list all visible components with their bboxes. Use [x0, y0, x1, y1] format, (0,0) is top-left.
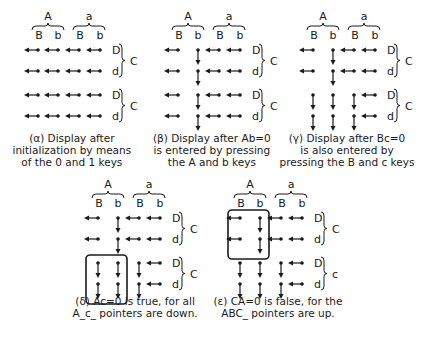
- left-pointer-icon: [125, 237, 141, 242]
- left-pointer-icon: [205, 69, 221, 74]
- label-B-col: B: [216, 29, 224, 42]
- caption-line: is entered by pressing: [153, 144, 271, 156]
- left-pointer-icon: [164, 114, 180, 119]
- left-pointer-icon: [361, 48, 377, 53]
- left-pointer-icon: [164, 69, 180, 74]
- label-b-col: b: [299, 197, 306, 210]
- label-b-col: b: [55, 29, 62, 42]
- label-B-col: B: [76, 29, 84, 42]
- left-pointer-icon: [340, 69, 356, 74]
- label-d-row: d: [314, 233, 321, 246]
- left-pointer-icon: [65, 93, 81, 98]
- label-D-row: D: [112, 89, 120, 102]
- label-d-row: d: [252, 65, 259, 78]
- down-pointer-icon: [196, 93, 201, 110]
- left-pointer-icon: [288, 237, 304, 242]
- label-D-row: D: [314, 257, 322, 270]
- caption-line: (ε) CA=0 is false, for the: [214, 295, 343, 307]
- left-pointer-icon: [86, 114, 102, 119]
- caption-line: is also entered by: [280, 144, 415, 156]
- label-b-col: b: [195, 29, 202, 42]
- label-d-row: d: [112, 110, 119, 123]
- label-B-col: B: [136, 197, 144, 210]
- label-a: a: [146, 178, 153, 191]
- label-A: A: [319, 10, 327, 23]
- left-pointer-icon: [361, 114, 377, 119]
- down-pointer-icon: [96, 261, 101, 278]
- label-D-row: D: [252, 44, 260, 57]
- label-D-row: D: [387, 89, 395, 102]
- left-pointer-icon: [226, 69, 242, 74]
- label-a: a: [86, 10, 93, 23]
- label-D-row: D: [172, 212, 180, 225]
- left-pointer-icon: [205, 93, 221, 98]
- down-pointer-icon: [258, 216, 263, 233]
- label-d-row: d: [112, 65, 119, 78]
- label-C: C: [190, 223, 198, 236]
- caption-line: (γ) Display after Bc=0: [280, 132, 415, 144]
- left-pointer-icon: [86, 69, 102, 74]
- left-pointer-icon: [146, 261, 162, 266]
- down-pointer-icon: [196, 69, 201, 86]
- down-pointer-icon: [196, 114, 201, 131]
- caption-line: pressing the B and c keys: [280, 156, 415, 168]
- left-pointer-icon: [44, 48, 60, 53]
- left-pointer-icon: [24, 69, 40, 74]
- label-b-col: b: [330, 29, 337, 42]
- label-b-col: b: [237, 29, 244, 42]
- left-pointer-icon: [361, 93, 377, 98]
- left-pointer-icon: [288, 261, 304, 266]
- left-pointer-icon: [24, 48, 40, 53]
- caption-line: of the 0 and 1 keys: [13, 156, 132, 168]
- left-pointer-icon: [86, 48, 102, 53]
- label-A: A: [246, 178, 254, 191]
- caption-line: initialization by means: [13, 144, 132, 156]
- highlight-box: [228, 210, 269, 259]
- label-D-row: D: [387, 44, 395, 57]
- left-pointer-icon: [146, 216, 162, 221]
- left-pointer-icon: [299, 48, 315, 53]
- left-pointer-icon: [288, 216, 304, 221]
- label-b-col: b: [97, 29, 104, 42]
- label-C: C: [405, 55, 413, 68]
- label-D-row: D: [172, 257, 180, 270]
- left-pointer-icon: [44, 93, 60, 98]
- left-pointer-icon: [24, 93, 40, 98]
- label-B-col: B: [237, 197, 245, 210]
- caption-alpha: (α) Display afterinitialization by means…: [13, 132, 132, 168]
- label-B-col: B: [35, 29, 43, 42]
- left-pointer-icon: [65, 114, 81, 119]
- label-d-row: d: [387, 110, 394, 123]
- left-pointer-icon: [24, 114, 40, 119]
- label-b-col: b: [115, 197, 122, 210]
- left-pointer-icon: [205, 48, 221, 53]
- down-pointer-icon: [258, 237, 263, 254]
- label-c: C: [270, 100, 278, 113]
- left-pointer-icon: [361, 69, 377, 74]
- label-C: C: [270, 55, 278, 68]
- down-pointer-icon: [352, 114, 357, 131]
- left-pointer-icon: [164, 48, 180, 53]
- label-A: A: [184, 10, 192, 23]
- label-C: C: [130, 55, 138, 68]
- left-pointer-icon: [146, 282, 162, 287]
- label-d-row: d: [172, 233, 179, 246]
- caption-beta: (β) Display after Ab=0is entered by pres…: [153, 132, 271, 168]
- label-b-col: b: [157, 197, 164, 210]
- left-pointer-icon: [125, 216, 141, 221]
- left-pointer-icon: [299, 69, 315, 74]
- down-pointer-icon: [311, 114, 316, 131]
- down-pointer-icon: [116, 237, 121, 254]
- caption-line: A_c_ pointers are down.: [73, 307, 198, 319]
- caption-line: (α) Display after: [13, 132, 132, 144]
- down-pointer-icon: [331, 48, 336, 65]
- caption-line: ABC_ pointers are up.: [214, 307, 343, 319]
- caption-line: (β) Display after Ab=0: [153, 132, 271, 144]
- left-pointer-icon: [44, 114, 60, 119]
- label-c: C: [190, 268, 198, 281]
- down-pointer-icon: [196, 48, 201, 65]
- left-pointer-icon: [226, 93, 242, 98]
- down-pointer-icon: [258, 261, 263, 278]
- down-pointer-icon: [238, 261, 243, 278]
- down-pointer-icon: [331, 114, 336, 131]
